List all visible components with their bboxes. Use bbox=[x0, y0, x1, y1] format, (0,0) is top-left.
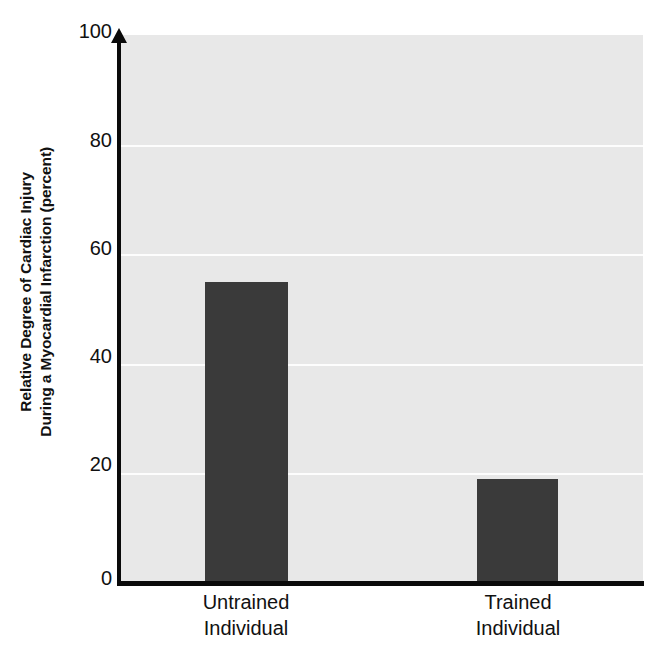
bar-chart-figure: Relative Degree of Cardiac Injury During… bbox=[0, 0, 664, 651]
gridline-20 bbox=[120, 145, 643, 147]
y-tick-label-20: 20 bbox=[68, 454, 112, 474]
y-axis-title-line-1: Relative Degree of Cardiac Injury bbox=[16, 147, 36, 437]
x-label-untrained-individual: Untrained Individual bbox=[156, 590, 336, 641]
gridline-40 bbox=[120, 254, 643, 256]
gridline-80 bbox=[120, 473, 643, 475]
x-label-untrained-line-1: Untrained bbox=[156, 590, 336, 616]
y-tick-label-80: 80 bbox=[68, 130, 112, 150]
plot-area bbox=[120, 35, 643, 583]
y-tick-label-0: 0 bbox=[68, 568, 112, 588]
y-tick-label-40: 40 bbox=[68, 346, 112, 366]
bar-trained-individual[interactable] bbox=[477, 479, 558, 583]
bar-untrained-individual[interactable] bbox=[205, 282, 288, 583]
y-axis-arrow-icon bbox=[111, 28, 127, 43]
gridline-60 bbox=[120, 364, 643, 366]
y-axis-tick-labels: 100 80 60 40 20 0 bbox=[64, 0, 112, 651]
y-axis-title-line-2: During a Myocardial Infarction (percent) bbox=[36, 147, 56, 437]
x-axis-category-labels: Untrained Individual Trained Individual bbox=[120, 590, 643, 650]
x-axis-line bbox=[117, 581, 644, 586]
x-label-trained-individual: Trained Individual bbox=[428, 590, 608, 641]
x-label-untrained-line-2: Individual bbox=[156, 616, 336, 642]
y-axis-line bbox=[117, 40, 121, 585]
y-tick-label-60: 60 bbox=[68, 238, 112, 258]
y-tick-label-100: 100 bbox=[68, 21, 112, 41]
x-label-trained-line-1: Trained bbox=[428, 590, 608, 616]
x-label-trained-line-2: Individual bbox=[428, 616, 608, 642]
y-axis-title: Relative Degree of Cardiac Injury During… bbox=[0, 0, 72, 583]
